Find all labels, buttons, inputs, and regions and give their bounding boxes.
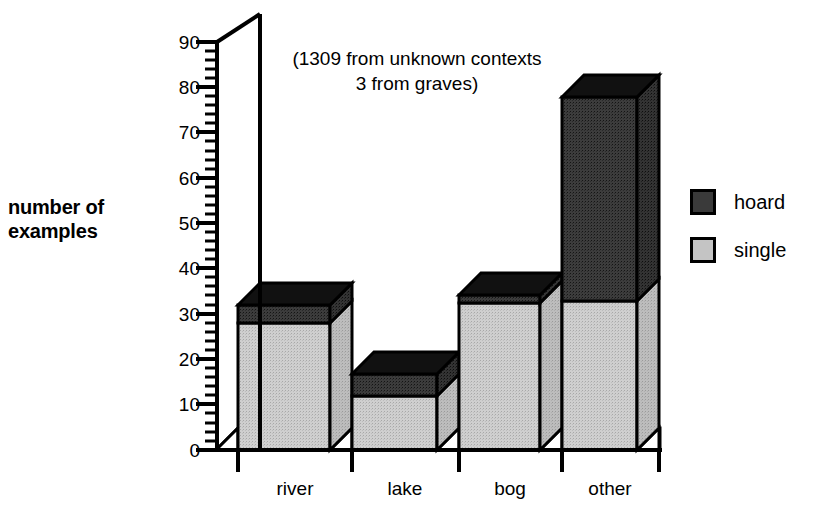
x-category-label-other: other (550, 478, 670, 500)
y-axis-break (217, 14, 260, 42)
x-category-label-river: river (235, 478, 355, 500)
x-axis-ticks (238, 450, 659, 472)
bar-bog[interactable] (459, 273, 562, 450)
bar-river-hoard-face (238, 305, 330, 323)
legend: hoard single (690, 178, 786, 274)
bar-other[interactable] (562, 75, 659, 450)
y-axis-major-ticks (196, 42, 217, 450)
bar-other-hoard-face (562, 97, 637, 301)
bar-other-single-side (637, 279, 659, 450)
chart-canvas: number of examples 90 80 70 60 50 40 30 … (0, 0, 822, 518)
bar-river-single-face (238, 323, 330, 450)
bar-lake-hoard-face (352, 374, 437, 396)
bar-lake-single-face (352, 396, 437, 450)
chart-annotation: (1309 from unknown contexts 3 from grave… (252, 46, 582, 96)
x-category-label-lake: lake (345, 478, 465, 500)
legend-item-hoard[interactable]: hoard (690, 178, 786, 226)
bar-lake[interactable] (352, 352, 459, 450)
bar-river[interactable] (238, 283, 352, 450)
legend-label-hoard: hoard (734, 191, 785, 214)
bar-other-single-face (562, 301, 637, 450)
bar-bog-single-side (540, 281, 562, 450)
chart-annotation-line2: 3 from graves) (252, 71, 582, 96)
bar-other-hoard-side (637, 75, 659, 301)
chart-annotation-line1: (1309 from unknown contexts (252, 46, 582, 71)
legend-label-single: single (734, 239, 786, 262)
legend-swatch-single (690, 237, 716, 263)
legend-swatch-hoard (690, 189, 716, 215)
bar-bog-single-face (459, 303, 540, 450)
legend-item-single[interactable]: single (690, 226, 786, 274)
bar-river-top (238, 283, 352, 305)
